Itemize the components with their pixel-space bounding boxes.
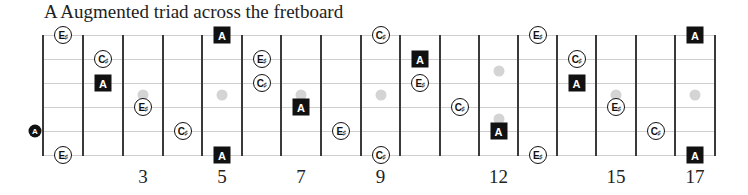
sharp-sign: ♯ [263,57,266,64]
note-name: A [297,101,305,113]
note-name: A [691,149,699,161]
fret-line-6 [280,35,282,156]
sharp-sign: ♯ [382,153,385,160]
fret-line-1 [82,35,84,156]
string-line-3 [43,83,715,84]
sharp-sign: ♯ [65,33,68,40]
sharp-sign: ♯ [657,129,660,136]
string-line-5 [43,131,715,132]
root-note-marker: A [687,147,704,164]
chord-tone-marker: E♯ [529,26,547,44]
note-name: C [572,54,579,65]
sharp-sign: ♯ [343,129,346,136]
inlay-dot-icon [493,66,504,77]
chord-tone-marker: C♯ [451,98,469,116]
root-note-marker: A [214,147,231,164]
note-name: C [98,54,105,65]
inlay-dot-icon [217,90,228,101]
note-name: C [376,150,383,161]
chord-tone-marker: C♯ [253,74,271,92]
sharp-sign: ♯ [422,81,425,88]
sharp-sign: ♯ [539,153,542,160]
fret-number-label: 12 [489,166,508,188]
sharp-sign: ♯ [65,153,68,160]
chord-tone-marker: C♯ [94,50,112,68]
note-name: C [178,126,185,137]
inlay-dot-icon [375,90,386,101]
inlay-dot-icon [690,90,701,101]
fret-line-11 [478,35,480,156]
note-name: A [691,29,699,41]
note-name: A [416,53,424,65]
fret-number-label: 3 [138,166,148,188]
fret-line-15 [635,35,637,156]
sharp-sign: ♯ [145,105,148,112]
fretboard: AE♯E♯C♯AE♯C♯AAE♯C♯AE♯C♯C♯AE♯C♯AE♯E♯C♯AE♯… [0,0,748,195]
chord-tone-marker: C♯ [647,122,665,140]
fret-line-12 [517,35,519,156]
string-line-2 [43,59,715,60]
fret-line-8 [360,35,362,156]
note-name: C [455,102,462,113]
root-note-marker: A [412,51,429,68]
chord-tone-marker: E♯ [253,50,271,68]
root-note-marker: A [490,123,507,140]
note-name: A [218,149,226,161]
fret-line-3 [162,35,164,156]
fret-number-label: 7 [296,166,306,188]
sharp-sign: ♯ [382,33,385,40]
root-note-marker: A [95,75,112,92]
fret-number-label: 5 [217,166,227,188]
root-note-marker: A [293,99,310,116]
note-name: C [257,78,264,89]
sharp-sign: ♯ [539,33,542,40]
root-note-marker: A [214,27,231,44]
sharp-sign: ♯ [105,57,108,64]
chord-tone-marker: E♯ [54,26,72,44]
sharp-sign: ♯ [618,105,621,112]
fret-number-label: 9 [376,166,386,188]
fret-line-7 [320,35,322,156]
chord-tone-marker: C♯ [372,146,390,164]
fret-line-5 [241,35,243,156]
note-name: A [99,77,107,89]
root-note-marker: A [568,75,585,92]
chord-tone-marker: E♯ [54,146,72,164]
fret-number-label: 17 [686,166,705,188]
sharp-sign: ♯ [461,105,464,112]
fret-line-9 [399,35,401,156]
open-string-root-marker: A [29,125,42,138]
fret-line-14 [595,35,597,156]
sharp-sign: ♯ [184,129,187,136]
note-name: A [495,125,503,137]
root-note-marker: A [687,27,704,44]
fret-line-16 [674,35,676,156]
sharp-sign: ♯ [578,57,581,64]
fret-line-17 [714,35,716,156]
chord-tone-marker: E♯ [529,146,547,164]
note-name: A [218,29,226,41]
chord-tone-marker: C♯ [372,26,390,44]
fret-line-13 [556,35,558,156]
fret-number-label: 15 [607,166,626,188]
nut-line [42,35,44,156]
chord-tone-marker: E♯ [411,74,429,92]
note-name: C [651,126,658,137]
sharp-sign: ♯ [263,81,266,88]
chord-tone-marker: E♯ [134,98,152,116]
note-name: A [573,77,581,89]
fret-line-4 [201,35,203,156]
fret-line-10 [439,35,441,156]
chord-tone-marker: C♯ [174,122,192,140]
fret-line-2 [122,35,124,156]
chord-tone-marker: E♯ [332,122,350,140]
chord-tone-marker: C♯ [568,50,586,68]
note-name: C [376,30,383,41]
chord-tone-marker: E♯ [607,98,625,116]
